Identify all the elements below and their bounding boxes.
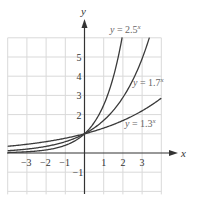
y-tick-label: 4 (77, 71, 82, 82)
curve-label: y = 1.7x (132, 76, 165, 88)
x-tick-label: 2 (120, 157, 125, 168)
y-tick-label: 3 (77, 90, 82, 101)
y-axis-arrow-icon (82, 19, 88, 28)
x-axis-label: x (180, 147, 186, 159)
exponential-chart: x y −3−2−1123−12345 y = 2.5xy = 1.7xy = … (0, 0, 198, 202)
curve-label: y = 2.5x (109, 23, 142, 35)
x-tick-label: −1 (59, 157, 70, 168)
curve-label: y = 1.3x (124, 117, 157, 129)
y-tick-label: 2 (77, 110, 82, 121)
x-tick-label: −3 (21, 157, 32, 168)
x-tick-label: 3 (140, 157, 145, 168)
y-tick-label: 5 (77, 52, 82, 63)
x-axis-arrow-icon (169, 150, 178, 156)
x-tick-label: −2 (40, 157, 51, 168)
y-axis-label: y (80, 5, 86, 17)
x-tick-label: 1 (101, 157, 106, 168)
y-tick-label: −1 (73, 167, 84, 178)
